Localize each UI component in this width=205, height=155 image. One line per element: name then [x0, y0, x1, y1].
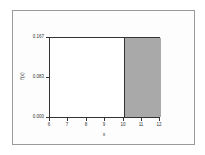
- y-tick-label: 0.167: [20, 34, 44, 39]
- plot-area: [49, 37, 160, 118]
- x-tick: [141, 118, 142, 121]
- x-tick: [49, 118, 50, 121]
- x-tick-label: 10: [118, 122, 128, 127]
- y-tick-label: 0.000: [20, 114, 44, 119]
- x-tick-label: 7: [62, 122, 72, 127]
- x-tick: [159, 118, 160, 121]
- x-axis-label: x: [99, 131, 109, 137]
- x-tick-label: 12: [154, 122, 164, 127]
- y-tick: [46, 77, 49, 78]
- x-tick: [104, 118, 105, 121]
- shaded-probability-region: [124, 38, 161, 117]
- x-tick-label: 9: [99, 122, 109, 127]
- x-tick: [86, 118, 87, 121]
- x-tick-label: 11: [136, 122, 146, 127]
- x-tick-label: 6: [44, 122, 54, 127]
- y-axis-label: f(x): [19, 69, 25, 83]
- x-tick: [67, 118, 68, 121]
- x-tick: [123, 118, 124, 121]
- x-tick-label: 8: [81, 122, 91, 127]
- y-tick: [46, 37, 49, 38]
